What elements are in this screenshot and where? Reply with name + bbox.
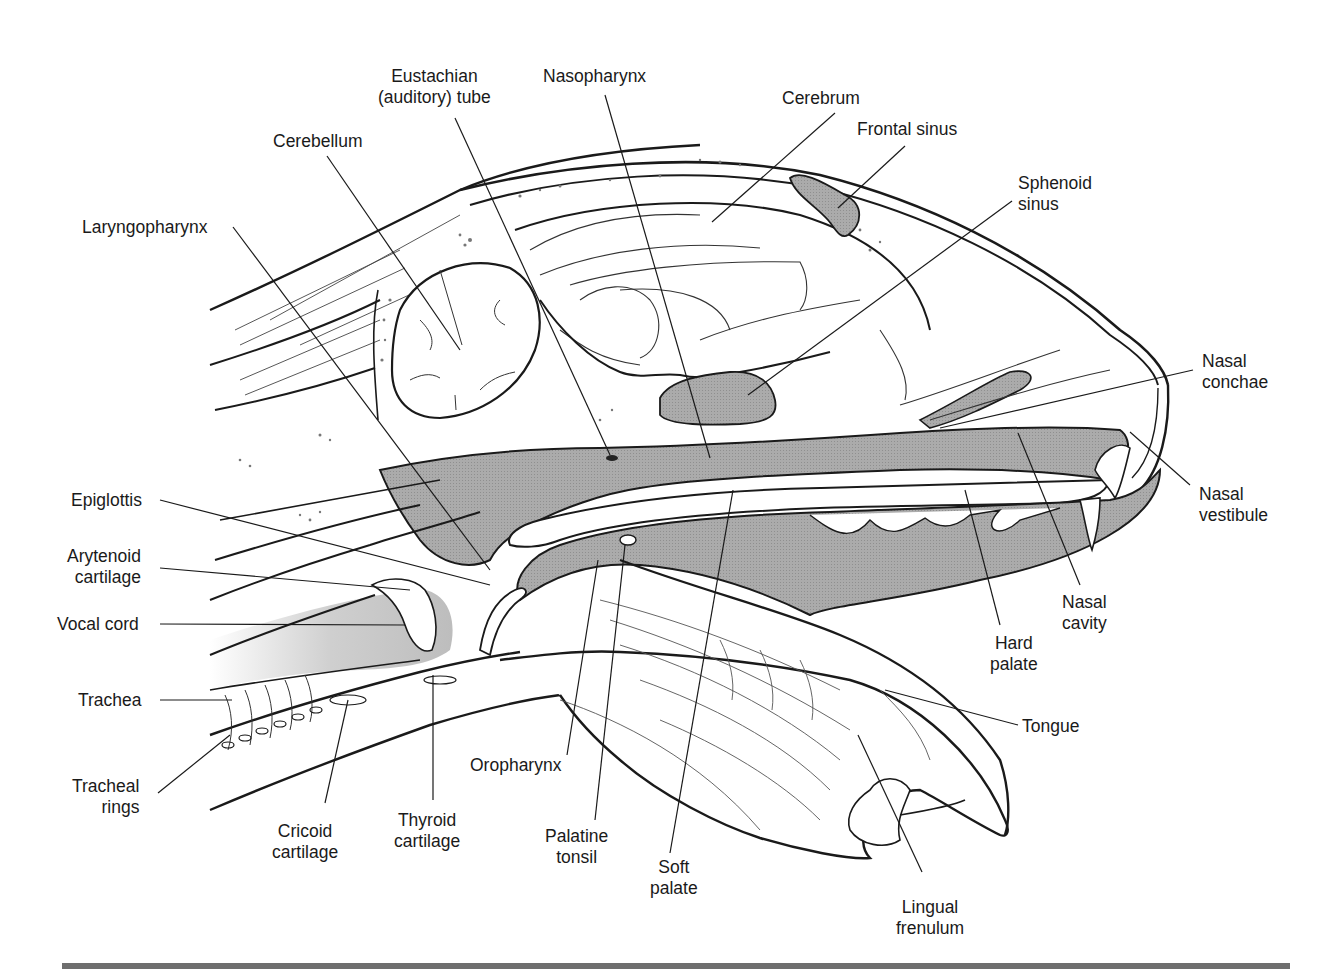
cranial-floor [540, 300, 830, 377]
label-tracheal-rings: Tracheal rings [72, 776, 139, 818]
label-palatine-tonsil: Palatine tonsil [545, 826, 608, 868]
cerebrum [530, 214, 860, 365]
bottom-rule [62, 963, 1290, 969]
frontal-sinus [790, 175, 859, 236]
label-eustachian-tube: Eustachian (auditory) tube [378, 66, 491, 108]
sphenoid-sinus [660, 372, 776, 425]
label-nasal-vestibule: Nasal vestibule [1199, 484, 1268, 526]
palatine-tonsil-shape [620, 535, 636, 545]
label-cerebrum: Cerebrum [782, 88, 860, 109]
label-frontal-sinus: Frontal sinus [857, 119, 957, 140]
label-lingual-frenulum: Lingual frenulum [896, 897, 964, 939]
label-tongue: Tongue [1022, 716, 1079, 737]
label-nasal-cavity: Nasal cavity [1062, 592, 1107, 634]
label-sphenoid-sinus: Sphenoid sinus [1018, 173, 1092, 215]
label-cerebellum: Cerebellum [273, 131, 362, 152]
label-vocal-cord: Vocal cord [57, 614, 139, 635]
label-epiglottis: Epiglottis [71, 490, 142, 511]
eustachian-tube-opening [606, 455, 618, 461]
anatomy-illustration [0, 0, 1343, 979]
cerebellum [374, 263, 540, 420]
tongue [500, 560, 1008, 858]
label-nasopharynx: Nasopharynx [543, 66, 646, 87]
label-arytenoid-cartilage: Arytenoid cartilage [67, 546, 141, 588]
epiglottis [480, 588, 526, 655]
label-cricoid-cartilage: Cricoid cartilage [272, 821, 338, 863]
label-trachea: Trachea [78, 690, 142, 711]
label-nasal-conchae: Nasal conchae [1202, 351, 1268, 393]
label-oropharynx: Oropharynx [470, 755, 561, 776]
label-hard-palate: Hard palate [990, 633, 1038, 675]
label-soft-palate: Soft palate [650, 857, 698, 899]
label-laryngopharynx: Laryngopharynx [82, 217, 208, 238]
label-thyroid-cartilage: Thyroid cartilage [394, 810, 460, 852]
